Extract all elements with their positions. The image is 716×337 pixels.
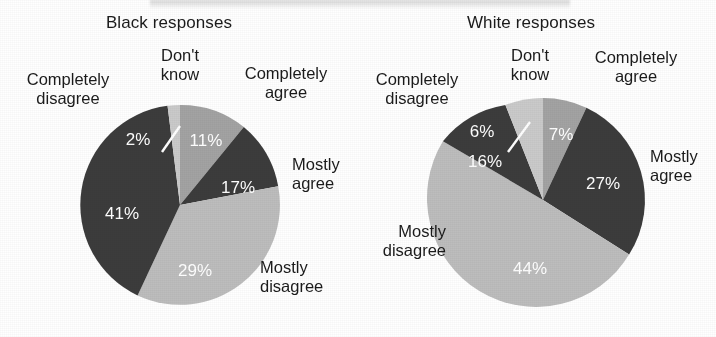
label-mostly-disagree: Mostly disagree	[350, 222, 446, 260]
pie-white-responses: 7% 27% 44% 16% 6% Don't know Completely …	[358, 0, 716, 337]
panel-white-responses: White responses 7% 27% 44% 16% 6%	[358, 0, 716, 337]
label-completely-disagree: Completely disagree	[356, 70, 478, 108]
pct-completely-agree: 7%	[549, 125, 574, 144]
panel-black-responses: Black responses 11% 17% 29% 41% 2%	[0, 0, 358, 337]
pct-mostly-agree: 27%	[586, 174, 620, 193]
pct-dont-know: 6%	[470, 122, 495, 141]
label-completely-agree: Completely agree	[224, 64, 348, 102]
pct-mostly-disagree: 44%	[513, 259, 547, 278]
pct-completely-disagree: 16%	[468, 152, 502, 171]
label-completely-disagree: Completely disagree	[8, 70, 128, 108]
label-completely-agree: Completely agree	[574, 48, 698, 86]
pct-completely-disagree: 41%	[105, 204, 139, 223]
pie-chart-figure: Black responses 11% 17% 29% 41% 2%	[0, 0, 716, 337]
label-mostly-agree: Mostly agree	[650, 147, 716, 185]
pie-black-responses: 11% 17% 29% 41% 2% Don't know Completely…	[0, 0, 358, 337]
pct-mostly-disagree: 29%	[178, 261, 212, 280]
pct-completely-agree: 11%	[190, 131, 223, 150]
label-mostly-disagree: Mostly disagree	[260, 258, 356, 296]
pct-dont-know: 2%	[126, 130, 151, 149]
label-dont-know: Don't know	[120, 46, 240, 84]
label-dont-know: Don't know	[470, 46, 590, 84]
pct-mostly-agree: 17%	[221, 178, 255, 197]
